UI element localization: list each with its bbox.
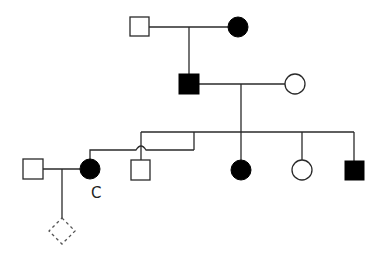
individual-ii2-female-unaffected (285, 74, 305, 94)
individual-ii1-male-affected (179, 74, 199, 94)
individual-iii3-female-affected (231, 160, 251, 180)
individual-iii2-male-unaffected (131, 160, 150, 180)
individual-c-female-affected (80, 159, 100, 179)
proband-label-c: C (91, 184, 101, 202)
sibship-line-to-c (90, 146, 194, 160)
pedigree-chart (0, 0, 384, 257)
individual-i2-female-affected (228, 17, 248, 37)
individual-i1-male-unaffected (130, 17, 149, 36)
individual-iii4-female-unaffected (292, 160, 312, 180)
individual-iii-spouse-male-unaffected (23, 159, 43, 179)
individual-iii5-male-affected (345, 161, 364, 180)
individual-iv1-unknown-dashed-diamond (49, 218, 75, 244)
